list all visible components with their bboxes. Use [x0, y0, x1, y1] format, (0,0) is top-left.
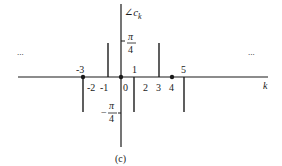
x-label-minus3: -3	[76, 64, 84, 75]
x-label-minus1: -1	[100, 82, 108, 93]
phase-spectrum-figure: ∠ck π 4 − π 4 -3 1 5 -2 -1 0 2 3 4 k ...…	[0, 0, 282, 166]
dot-k-0	[119, 75, 123, 79]
ellipsis-right: ...	[248, 47, 255, 57]
x-label-0: 0	[123, 82, 128, 93]
x-label-minus2: -2	[87, 82, 95, 93]
y-tick-neg-num: π	[109, 100, 115, 111]
x-label-1: 1	[132, 64, 137, 75]
y-axis-label: ∠ck	[124, 6, 142, 21]
y-tick-pos-den: 4	[128, 44, 133, 55]
ellipsis-left: ...	[17, 47, 24, 57]
x-label-3: 3	[156, 82, 161, 93]
x-label-5: 5	[181, 64, 186, 75]
x-label-2: 2	[143, 82, 148, 93]
figure-caption: (c)	[115, 153, 126, 165]
stem-plot: ∠ck π 4 − π 4 -3 1 5 -2 -1 0 2 3 4 k ...…	[0, 0, 282, 166]
y-tick-neg-den: 4	[109, 113, 114, 124]
y-tick-neg-sign: −	[101, 107, 107, 118]
y-tick-pos-num: π	[128, 31, 134, 42]
dot-k-4	[170, 75, 174, 79]
x-axis-label: k	[263, 80, 268, 91]
x-label-4: 4	[169, 82, 174, 93]
dot-k-minus3	[81, 75, 85, 79]
